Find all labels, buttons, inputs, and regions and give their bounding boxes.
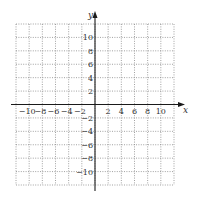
axes: x y xyxy=(11,10,188,191)
coordinate-plane: x y −10−8−6−4−2246810108642−2−4−6−8−10 xyxy=(0,0,197,204)
x-tick-label: 4 xyxy=(119,107,124,116)
x-tick-label: 6 xyxy=(132,107,137,116)
x-tick-label: 2 xyxy=(106,107,111,116)
y-tick-label: −10 xyxy=(76,168,93,177)
x-tick-label: 10 xyxy=(156,107,166,116)
x-tick-label: −10 xyxy=(19,107,36,116)
y-tick-label: −2 xyxy=(81,114,93,123)
y-tick-label: 10 xyxy=(83,33,93,42)
x-tick-label: −4 xyxy=(61,107,73,116)
y-tick-label: −6 xyxy=(81,141,93,150)
x-tick-label: −8 xyxy=(34,107,46,116)
x-tick-label: 8 xyxy=(145,107,150,116)
y-tick-label: −4 xyxy=(81,127,93,136)
y-tick-label: −8 xyxy=(81,154,93,163)
x-tick-label: −6 xyxy=(48,107,60,116)
y-tick-label: 8 xyxy=(88,47,93,56)
y-tick-label: 2 xyxy=(88,87,93,96)
x-axis-label: x xyxy=(183,105,188,115)
y-tick-label: 4 xyxy=(88,74,93,83)
y-axis-label: y xyxy=(87,10,94,20)
y-axis-arrow-icon xyxy=(93,11,98,18)
y-tick-label: 6 xyxy=(88,60,93,69)
